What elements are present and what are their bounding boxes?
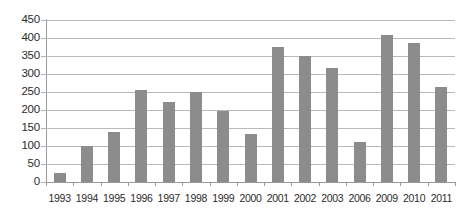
x-tick-mark [182,182,183,186]
x-tick-label: 2010 [403,192,425,204]
x-tick-label: 1997 [158,192,180,204]
y-tick-mark [41,56,46,57]
x-axis: 1993199419951996199719981999200020012002… [46,182,455,214]
y-tick-mark [41,38,46,39]
bar [435,87,447,182]
x-tick-label: 2002 [294,192,316,204]
y-tick-mark [41,128,46,129]
bar [54,173,66,182]
x-tick-label: 2001 [267,192,289,204]
y-tick-mark [41,164,46,165]
bar [354,142,366,182]
x-tick-label: 1994 [76,192,98,204]
bar [135,90,147,182]
x-tick-mark [400,182,401,186]
y-tick-label: 200 [0,104,40,115]
bar [190,92,202,182]
y-tick-label: 50 [0,158,40,169]
x-tick-mark [46,182,47,186]
y-tick-label: 0 [0,176,40,187]
x-tick-label: 2011 [431,192,452,204]
x-tick-label: 2000 [239,192,261,204]
y-tick-mark [41,110,46,111]
y-tick-mark [41,20,46,21]
x-tick-mark [455,182,456,186]
x-tick-label: 1996 [130,192,152,204]
y-tick-label: 100 [0,140,40,151]
x-tick-label: 2006 [348,192,370,204]
y-tick-mark [41,92,46,93]
x-tick-mark [210,182,211,186]
x-tick-label: 2009 [376,192,398,204]
x-tick-label: 2003 [321,192,343,204]
bar [245,134,257,182]
y-tick-label: 150 [0,122,40,133]
x-tick-mark [291,182,292,186]
x-tick-mark [428,182,429,186]
x-tick-mark [264,182,265,186]
y-tick-label: 350 [0,50,40,61]
x-tick-label: 1999 [212,192,234,204]
x-tick-label: 1998 [185,192,207,204]
x-tick-mark [319,182,320,186]
y-tick-mark [41,182,46,183]
bar [81,146,93,182]
x-tick-label: 1993 [49,192,71,204]
bar-chart: 450400350300250200150100500 199319941995… [0,0,465,214]
plot-area [46,20,455,182]
x-tick-mark [346,182,347,186]
bar [108,132,120,182]
y-axis: 450400350300250200150100500 [0,0,40,214]
x-tick-mark [237,182,238,186]
bar [163,102,175,182]
x-tick-mark [101,182,102,186]
bar [381,35,393,182]
y-tick-label: 450 [0,14,40,25]
y-tick-label: 250 [0,86,40,97]
y-tick-label: 300 [0,68,40,79]
bar [272,47,284,182]
x-tick-mark [155,182,156,186]
bars-series [46,20,455,182]
y-tick-mark [41,74,46,75]
x-tick-mark [128,182,129,186]
bar [326,68,338,182]
y-tick-mark [41,146,46,147]
bar [299,56,311,182]
x-tick-label: 1995 [103,192,125,204]
x-tick-mark [73,182,74,186]
y-tick-label: 400 [0,32,40,43]
x-tick-mark [373,182,374,186]
bar [217,111,229,182]
bar [408,43,420,182]
